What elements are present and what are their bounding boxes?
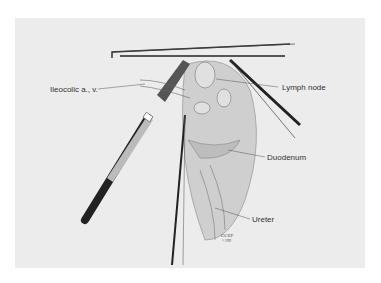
illustration-drawing [0, 0, 381, 283]
label-lymph-node: Lymph node [282, 83, 326, 92]
label-ureter: Ureter [252, 215, 274, 224]
signature-sub: © 1999 [222, 239, 231, 243]
signature-mark: CCEF [221, 233, 234, 238]
label-ileocolic: Ileocolic a., v. [50, 85, 98, 94]
surgical-illustration: Ileocolic a., v. Lymph node Duodenum Ure… [0, 0, 381, 283]
label-duodenum: Duodenum [267, 153, 306, 162]
